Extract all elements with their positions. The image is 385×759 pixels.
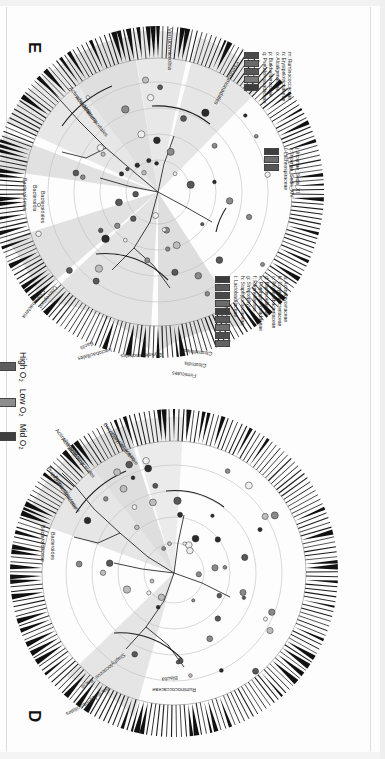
legend-bottom-swatches [215, 276, 230, 347]
o2-item-high: High O₂ [0, 352, 28, 382]
legend-swatch [215, 324, 230, 331]
legend-entry: o: Alcaligenaceae [274, 52, 280, 103]
legend-entry: b: Corynebacteriaceae [276, 276, 282, 347]
legend-top-entries: m: Ruminococcaceae n: Erysipelotrichacea… [244, 52, 292, 103]
legend-entry: g: Streptophyta [245, 276, 251, 347]
legend-swatch [215, 284, 230, 291]
legend-swatch [264, 164, 279, 171]
tax-label-d-bacteroidaceae: Bacteroidaceae [40, 525, 45, 562]
tax-label-clostridia: Clostridia [184, 360, 207, 368]
legend-bottom-entries: a: Actinomycetaceae b: Corynebacteriacea… [215, 276, 288, 347]
legend-entry: e: Porphyromonadaceae [257, 276, 263, 347]
panel-E: E [0, 0, 385, 380]
legend-swatch [215, 316, 230, 323]
legend-entry: n: Erysipelotrichaceae [280, 52, 286, 103]
legend-swatch [264, 148, 279, 155]
tax-label-firmicutes: Firmicutes [172, 370, 197, 378]
legend-entry: j: Incertae_Sedis_XI [294, 148, 300, 197]
o2-label: High O₂ [18, 352, 28, 382]
legend-swatch [264, 156, 279, 163]
legend-entry: l: Lachnospiraceae [282, 148, 288, 197]
legend-entry: p: Burkholderiaceae [268, 52, 274, 103]
tax-label-d-ruminococcaceae: Ruminococcaceae [152, 687, 196, 692]
legend-swatch [215, 276, 230, 283]
legend-swatch [244, 84, 259, 91]
legend-middle-entries: j: Incertae_Sedis_XI k: Incertae_Sedis_X… [264, 148, 300, 197]
legend-swatch [244, 68, 259, 75]
legend-middle: j: Incertae_Sedis_XI k: Incertae_Sedis_X… [300, 148, 349, 184]
tax-label-d-blautia: Blautia [161, 675, 178, 682]
legend-swatch [244, 52, 259, 59]
legend-entry: d: Bacteroidaceae [264, 276, 270, 347]
tax-label-bacteroidetes: Bacteroidetes [22, 178, 27, 210]
legend-entry: k: Incertae_Sedis_XIV [288, 148, 294, 197]
tax-label-bacteroidia: Bacteroidia [32, 185, 37, 212]
legend-entry: c: Propionibacteriaceae [270, 276, 276, 347]
legend-entry: m: Ruminococcaceae [286, 52, 292, 103]
legend-bottom: a: Actinomycetaceae b: Corynebacteriacea… [288, 276, 359, 349]
figure-page: E [0, 0, 385, 759]
tax-label-erysipelotrichales: Erysipelotrichales [120, 352, 162, 359]
legend-swatch [244, 76, 259, 83]
legend-swatch [244, 60, 259, 67]
tax-label-d-bacteroides: Bacteroides [50, 532, 55, 560]
tax-label-bacteroidales: Bacteroidales [40, 191, 45, 223]
o2-swatch-high [0, 362, 16, 371]
legend-swatch [215, 292, 230, 299]
legend-middle-swatches [264, 148, 279, 197]
legend-entry: f: Rikenellaceae [251, 276, 257, 347]
legend-swatch [215, 300, 230, 307]
legend-swatch [215, 340, 230, 347]
legend-entry: q: Pseudomonadaceae [261, 52, 267, 103]
legend-top: m: Ruminococcaceae n: Erysipelotrichacea… [292, 52, 343, 100]
legend-swatch [215, 308, 230, 315]
legend-top-swatches [244, 52, 259, 103]
legend-swatch [215, 332, 230, 339]
legend-entry: a: Actinomycetaceae [282, 276, 288, 347]
legend-entry: h: Staphylococcaceae [239, 276, 245, 347]
panel-D: D [0, 380, 385, 759]
legend-entry: i: Lactobacillaceae [233, 276, 239, 347]
tax-label-verrucomicrobia: Verrucomicrobia [166, 28, 172, 70]
